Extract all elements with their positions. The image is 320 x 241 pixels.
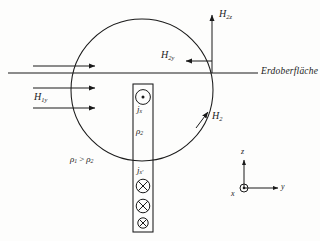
current-in-symbol-2 — [136, 199, 150, 213]
physics-diagram: Erdoberfläche H1y H2z H2y H2 jx ρ2 jx' ρ… — [0, 0, 320, 241]
resistivity-comparison-label: ρ1>ρ2 — [70, 155, 93, 165]
h2-subscript: 2 — [219, 115, 222, 122]
rho2-subscript: 2 — [140, 130, 143, 136]
jx-prime-label: jx' — [137, 166, 143, 176]
axis-y-label: y — [281, 183, 285, 191]
rho2-label: ρ2 — [136, 127, 143, 137]
conductor-bar — [133, 84, 153, 232]
h2y-label: H2y — [161, 50, 174, 61]
diagram-canvas — [0, 0, 320, 241]
h2y-subscript: 2y — [168, 54, 174, 61]
axis-x-label: x — [231, 190, 235, 198]
h2-label: H2 — [212, 111, 222, 122]
h1y-label: H1y — [34, 92, 47, 103]
rho2b-subscript: 2 — [91, 158, 94, 164]
h1y-subscript: 1y — [41, 96, 47, 103]
current-in-symbol-3 — [138, 218, 148, 228]
earth-surface-label: Erdoberfläche — [261, 67, 318, 77]
jx-subscript: x — [140, 108, 143, 114]
h2z-label: H2z — [219, 9, 232, 20]
current-in-symbol-1 — [136, 179, 150, 193]
jx-label: jx — [137, 105, 142, 115]
comparison-operator: > — [77, 154, 86, 164]
current-out-symbol — [136, 90, 151, 105]
axis-z-label: z — [241, 148, 244, 156]
coordinate-axes — [240, 160, 278, 192]
h2z-subscript: 2z — [226, 13, 232, 20]
jx-prime-subscript: x' — [140, 169, 144, 175]
